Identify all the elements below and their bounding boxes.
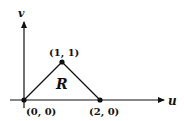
point-0-0 [21,97,26,102]
point-0-0-label: (0, 0) [26,106,56,118]
edge-apex-to-2-0 [62,62,100,100]
triangle-region-diagram: v u (1, 1) R (0, 0) (2, 0) [0,0,184,121]
point-1-1-label: (1, 1) [49,47,79,59]
point-2-0 [97,97,102,102]
v-axis-label: v [18,7,25,20]
point-2-0-label: (2, 0) [89,106,119,118]
u-axis-label: u [168,94,177,108]
point-1-1 [59,59,64,64]
region-label: R [55,76,68,92]
